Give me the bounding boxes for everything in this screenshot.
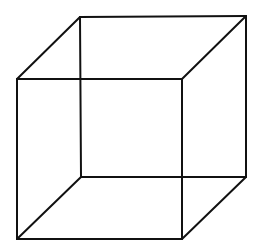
- back-top-edge: [80, 16, 246, 17]
- wireframe-cube: [17, 16, 246, 239]
- connector-top-right: [182, 16, 246, 79]
- back-left-edge: [80, 17, 81, 177]
- connector-top-left: [17, 17, 80, 79]
- cube-diagram: [0, 0, 262, 250]
- connector-bottom-right: [182, 177, 246, 239]
- connector-bottom-left: [17, 177, 81, 239]
